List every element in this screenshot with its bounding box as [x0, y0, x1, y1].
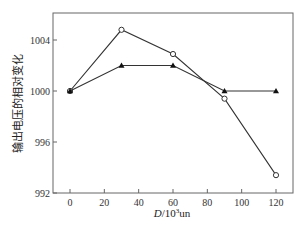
plot-frame: [53, 13, 293, 193]
data-series: [67, 27, 279, 178]
y-tick-label: 996: [35, 137, 50, 148]
line-chart: 99299610001004 020406080100120 输出电压的相对变化…: [0, 0, 306, 231]
x-axis-title: D/103un: [153, 207, 191, 219]
y-tick-label: 1004: [30, 35, 50, 46]
x-tick-label: 40: [134, 197, 144, 208]
circle-marker-icon: [119, 27, 124, 32]
y-tick-label: 992: [35, 188, 50, 199]
circle-marker-icon: [170, 51, 175, 56]
x-tick-label: 20: [99, 197, 109, 208]
x-tick-label: 0: [68, 197, 73, 208]
y-tick-label: 1000: [30, 86, 50, 97]
x-axis-ticks: 020406080100120: [68, 189, 284, 208]
x-tick-label: 120: [269, 197, 284, 208]
circle-marker-icon: [273, 173, 278, 178]
filled-triangle-series-line: [70, 66, 276, 92]
x-tick-label: 100: [234, 197, 249, 208]
circle-marker-icon: [222, 96, 227, 101]
y-axis-title: 输出电压的相对变化: [11, 54, 24, 153]
x-tick-label: 80: [202, 197, 212, 208]
